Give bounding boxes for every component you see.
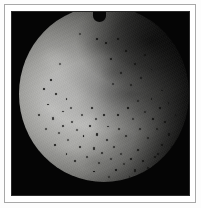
petechial-spot: [67, 139, 69, 141]
petechial-spot: [130, 84, 132, 86]
petechial-spot: [134, 169, 136, 171]
figure-root: [0, 0, 201, 208]
petechial-spot: [43, 88, 45, 90]
petechial-spot: [139, 128, 141, 130]
endoscopic-photo-panel: [12, 12, 189, 195]
petechial-spot: [62, 125, 64, 127]
petechial-spot: [115, 169, 117, 171]
petechial-spot: [137, 149, 139, 151]
petechial-spot: [144, 111, 146, 113]
petechial-spot: [141, 176, 143, 178]
petechial-spot: [38, 114, 40, 116]
petechial-spot: [147, 167, 149, 169]
petechial-spot: [47, 104, 49, 106]
petechial-spot: [161, 90, 163, 92]
petechial-spot: [96, 38, 98, 40]
petechial-spot: [89, 125, 91, 127]
petechial-spot: [120, 153, 122, 155]
petechial-spot: [154, 156, 156, 158]
petechial-spot: [91, 107, 93, 109]
petechial-spot: [166, 160, 168, 162]
petechial-spot: [137, 100, 139, 102]
petechial-spot: [95, 118, 97, 120]
petechial-spot: [171, 146, 173, 148]
petechial-spot: [152, 174, 154, 176]
petechial-spot: [110, 58, 112, 60]
petechial-spot: [79, 33, 81, 35]
petechial-spot: [157, 153, 159, 155]
petechial-spot: [130, 158, 132, 160]
petechial-spot: [127, 107, 129, 109]
petechial-spot: [151, 98, 153, 100]
petechial-spot: [151, 69, 153, 71]
circular-field-of-view: [19, 12, 189, 182]
petechial-spot: [101, 152, 103, 154]
petechial-spot: [152, 118, 154, 120]
petechial-spot: [117, 114, 119, 116]
petechial-spot: [123, 163, 125, 165]
petechial-spot: [164, 121, 166, 123]
petechial-spot: [54, 144, 56, 146]
petechial-spot: [59, 63, 61, 65]
petechial-spot: [45, 128, 47, 130]
petechial-spot: [52, 117, 54, 119]
petechial-spot: [156, 128, 158, 130]
petechial-spot-layer: [19, 12, 189, 182]
petechial-spot: [120, 72, 122, 74]
petechial-spot: [86, 156, 88, 158]
petechial-spot: [132, 118, 134, 120]
petechial-spot: [93, 147, 95, 149]
petechial-spot: [105, 42, 107, 44]
petechial-spot: [93, 171, 95, 173]
petechial-spot: [144, 54, 146, 56]
petechial-spot: [147, 137, 149, 139]
petechial-spot: [112, 83, 114, 85]
petechial-spot: [117, 38, 119, 40]
petechial-spot: [113, 146, 115, 148]
petechial-spot: [98, 162, 100, 164]
petechial-spot: [125, 135, 127, 137]
petechial-spot: [62, 111, 64, 113]
petechial-spot: [134, 63, 136, 65]
petechial-spot: [140, 77, 142, 79]
petechial-spot: [74, 160, 76, 162]
petechial-spot: [168, 133, 170, 135]
petechial-spot: [175, 114, 177, 116]
petechial-spot: [161, 144, 163, 146]
petechial-spot: [70, 107, 72, 109]
petechial-spot: [66, 153, 68, 155]
petechial-spot: [66, 98, 68, 100]
petechial-spot: [103, 114, 105, 116]
petechial-spot: [76, 129, 78, 131]
petechial-spot: [96, 133, 98, 135]
petechial-spot: [107, 126, 109, 128]
petechial-spot: [79, 146, 81, 148]
petechial-spot: [118, 128, 120, 130]
petechial-spot: [83, 135, 85, 137]
petechial-spot: [50, 79, 52, 81]
petechial-spot: [125, 50, 127, 52]
petechial-spot: [55, 93, 57, 95]
petechial-spot: [81, 114, 83, 116]
petechial-spot: [159, 107, 161, 109]
petechial-spot: [106, 139, 108, 141]
petechial-spot: [58, 132, 60, 134]
petechial-spot: [71, 121, 73, 123]
petechial-spot: [110, 158, 112, 160]
petechial-spot: [142, 160, 144, 162]
petechial-spot: [108, 176, 110, 178]
petechial-spot: [129, 176, 131, 178]
petechial-spot: [168, 102, 170, 104]
